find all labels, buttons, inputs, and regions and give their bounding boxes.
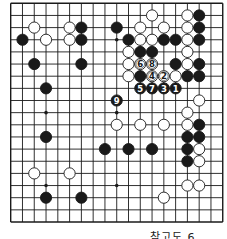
black-stone xyxy=(76,58,87,69)
white-stone xyxy=(182,46,193,57)
black-stone xyxy=(182,131,193,142)
black-stone: 3 xyxy=(158,83,169,94)
white-stone xyxy=(170,71,181,82)
white-stone xyxy=(182,180,193,191)
white-stone xyxy=(135,119,146,130)
star-point xyxy=(44,111,48,115)
star-point xyxy=(115,38,119,42)
black-stone xyxy=(158,34,169,45)
white-stone: 8 xyxy=(146,58,157,69)
black-stone xyxy=(123,34,134,45)
white-stone xyxy=(146,34,157,45)
move-number: 7 xyxy=(149,84,155,94)
white-stone xyxy=(123,71,134,82)
white-stone xyxy=(182,22,193,33)
white-stone: 4 xyxy=(146,71,157,82)
diagram-caption: 참고도 6 xyxy=(150,228,227,239)
black-stone xyxy=(194,22,205,33)
white-stone xyxy=(123,58,134,69)
move-number: 5 xyxy=(137,84,143,94)
black-stone xyxy=(170,58,181,69)
black-stone xyxy=(182,71,193,82)
star-point xyxy=(44,184,48,188)
black-stone xyxy=(40,192,51,203)
white-stone xyxy=(182,58,193,69)
white-stone xyxy=(29,168,40,179)
white-stone xyxy=(135,34,146,45)
white-stone xyxy=(194,156,205,167)
black-stone xyxy=(76,22,87,33)
black-stone: 7 xyxy=(146,83,157,94)
black-stone xyxy=(17,34,28,45)
white-stone xyxy=(182,107,193,118)
black-stone xyxy=(123,144,134,155)
black-stone xyxy=(40,83,51,94)
black-stone: 5 xyxy=(135,83,146,94)
white-stone xyxy=(146,10,157,21)
black-stone xyxy=(146,46,157,57)
white-stone xyxy=(64,34,75,45)
black-stone xyxy=(40,131,51,142)
star-point xyxy=(115,184,119,188)
black-stone xyxy=(76,192,87,203)
white-stone xyxy=(158,22,169,33)
black-stone xyxy=(182,156,193,167)
black-stone xyxy=(76,34,87,45)
black-stone xyxy=(194,58,205,69)
black-stone xyxy=(29,58,40,69)
move-number: 1 xyxy=(173,84,179,94)
white-stone xyxy=(111,119,122,130)
white-stone xyxy=(158,192,169,203)
move-number: 9 xyxy=(114,96,120,106)
move-number: 3 xyxy=(161,84,167,94)
black-stone: 1 xyxy=(170,83,181,94)
white-stone xyxy=(135,22,146,33)
white-stone xyxy=(194,180,205,191)
black-stone xyxy=(111,22,122,33)
white-stone xyxy=(194,144,205,155)
white-stone: 6 xyxy=(135,58,146,69)
white-stone xyxy=(182,119,193,130)
black-stone xyxy=(194,71,205,82)
black-stone xyxy=(135,71,146,82)
black-stone xyxy=(146,144,157,155)
black-stone: 9 xyxy=(111,95,122,106)
black-stone xyxy=(182,144,193,155)
black-stone xyxy=(135,46,146,57)
white-stone xyxy=(40,34,51,45)
move-number: 4 xyxy=(149,71,155,81)
move-number: 8 xyxy=(149,59,155,69)
black-stone xyxy=(194,131,205,142)
star-point xyxy=(115,111,119,115)
white-stone xyxy=(123,46,134,57)
white-stone xyxy=(158,119,169,130)
stones: 684257319 xyxy=(17,10,205,203)
white-stone xyxy=(64,168,75,179)
black-stone xyxy=(194,34,205,45)
black-stone xyxy=(99,144,110,155)
white-stone xyxy=(194,95,205,106)
white-stone: 2 xyxy=(158,71,169,82)
black-stone xyxy=(194,10,205,21)
move-number: 6 xyxy=(137,59,143,69)
move-number: 2 xyxy=(161,71,167,81)
go-board: 684257319 xyxy=(0,0,227,239)
white-stone xyxy=(64,22,75,33)
black-stone xyxy=(194,119,205,130)
white-stone xyxy=(29,22,40,33)
black-stone xyxy=(170,34,181,45)
white-stone xyxy=(182,10,193,21)
white-stone xyxy=(182,34,193,45)
